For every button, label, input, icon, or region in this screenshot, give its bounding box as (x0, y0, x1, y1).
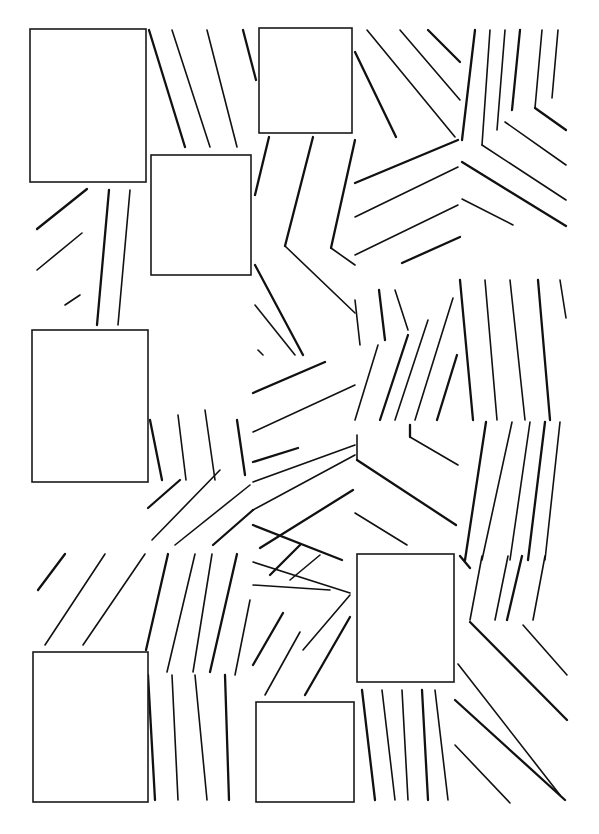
line-segment (355, 345, 378, 420)
line-group-mid-left-verticals (150, 410, 245, 480)
line-segment (146, 554, 168, 650)
line-segment (265, 632, 300, 695)
line-segment (415, 298, 453, 420)
line-segment (410, 437, 458, 465)
line-segment (507, 556, 522, 620)
line-segment (258, 350, 263, 355)
rect-6 (33, 652, 148, 802)
line-segment (485, 280, 497, 420)
line-segment (331, 248, 355, 265)
line-group-bottom-center-lines (148, 675, 229, 800)
line-segment (428, 30, 460, 62)
rect-7 (256, 702, 354, 802)
line-segment (435, 690, 448, 800)
line-segment (402, 237, 460, 263)
line-group-far-right-chevrons (462, 108, 566, 226)
line-segment (172, 675, 178, 800)
line-segment (523, 625, 567, 675)
line-segment (207, 30, 237, 147)
line-group-center-chevron-2 (331, 140, 355, 265)
line-segment (395, 320, 428, 420)
line-group-mid-right-chevrons (355, 425, 458, 545)
line-segment (357, 460, 456, 525)
line-segment (367, 30, 455, 137)
line-segment (235, 600, 250, 675)
line-group-mid-chevron-lower-left (148, 470, 253, 545)
line-segment (305, 617, 350, 695)
line-segment (505, 122, 566, 165)
line-segment (65, 295, 80, 305)
line-segment (355, 52, 396, 137)
line-segment (193, 554, 212, 672)
line-segment (148, 675, 155, 800)
line-group-mid-center-diagonals (253, 445, 355, 548)
rect-1 (30, 29, 146, 182)
line-segment (533, 556, 545, 620)
line-group-center-chevron-1 (285, 137, 355, 313)
line-group-right-top-diagonals (355, 30, 460, 137)
line-segment (172, 30, 210, 147)
line-group-center-right-verticals (355, 290, 457, 420)
line-group-mid-right-verticals (460, 280, 566, 420)
line-segment (253, 362, 325, 393)
line-segment (148, 480, 180, 508)
line-segment (379, 290, 385, 340)
line-group-center-upper-vertical-1 (255, 137, 269, 195)
line-segment (253, 448, 298, 462)
line-segment (255, 265, 303, 355)
line-segment (538, 280, 550, 420)
line-segment (465, 422, 486, 560)
line-segment (362, 690, 375, 800)
line-segment (331, 140, 355, 248)
line-segment (243, 30, 256, 80)
line-segment (355, 300, 360, 345)
line-segment (253, 585, 330, 590)
line-segment (255, 137, 269, 195)
rect-4 (32, 330, 148, 482)
line-segment (205, 410, 215, 480)
line-segment (510, 422, 530, 560)
line-segment (512, 30, 520, 110)
line-segment (455, 700, 565, 800)
line-group-right-top-chevron-lines (355, 140, 460, 263)
line-segment (482, 145, 566, 200)
rect-5 (357, 554, 454, 682)
line-segment (149, 30, 185, 147)
line-segment (462, 162, 566, 226)
line-segment (178, 415, 186, 480)
line-segment (462, 30, 475, 140)
line-group-far-right-diagonals-bottom (455, 622, 567, 803)
line-drawing-canvas (0, 0, 599, 834)
line-group-bottom-center-verticals (146, 554, 250, 675)
line-group-bottom-right-verticals (362, 690, 448, 800)
line-group-center-mid-diagonals (253, 300, 360, 432)
line-segment (37, 233, 82, 270)
line-segment (213, 510, 253, 545)
line-segment (560, 280, 566, 318)
line-group-left-mid-verticals (97, 190, 130, 325)
line-segment (482, 422, 512, 560)
line-segment (528, 422, 545, 560)
line-segment (285, 246, 355, 313)
line-segment (285, 137, 313, 246)
line-segment (545, 422, 560, 560)
line-segment (510, 280, 525, 420)
line-segment (422, 690, 428, 800)
line-segment (437, 355, 457, 420)
line-segment (355, 167, 458, 217)
rect-2 (151, 155, 251, 275)
line-segment (37, 189, 87, 229)
line-segment (402, 690, 408, 800)
line-segment (552, 30, 558, 98)
line-segment (253, 525, 342, 560)
line-segment (535, 30, 542, 108)
line-group-bottom-center-diagonals (253, 595, 350, 695)
line-segment (237, 420, 245, 475)
line-segment (470, 622, 567, 720)
line-group-left-mid-diagonals (37, 189, 87, 305)
line-segment (195, 675, 207, 800)
line-segment (303, 595, 350, 650)
line-segment (497, 30, 505, 130)
rect-3 (259, 28, 352, 133)
line-group-far-right-verticals-mid (465, 422, 560, 560)
